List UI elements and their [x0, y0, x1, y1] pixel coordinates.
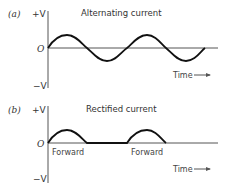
panel-a-label: (a)	[8, 9, 21, 19]
panel-a-arrowhead-icon	[206, 73, 211, 77]
panel-b-zero-label: O	[37, 139, 45, 149]
panel-b-forward-label-2: Forward	[131, 148, 163, 157]
panel-b-time-label: Time	[172, 165, 193, 174]
panel-b-plus-v-label: +V	[32, 105, 47, 115]
panel-a-title: Alternating current	[81, 8, 162, 18]
panel-b-arrowhead-icon	[206, 167, 211, 171]
panel-b-minus-v-label: −V	[33, 174, 48, 184]
panel-b-forward-label-1: Forward	[52, 148, 84, 157]
panel-a-zero-label: O	[37, 44, 45, 54]
panel-a-time-label: Time	[172, 71, 193, 80]
panel-a-plus-v-label: +V	[32, 9, 47, 19]
panel-b-title: Rectified current	[86, 104, 157, 114]
panel-a-minus-v-label: −V	[33, 81, 48, 91]
current-diagram: (a) +V Alternating current O −V Time (b)…	[0, 0, 234, 189]
panel-b-rectified-current: (b) +V Rectified current O −V Forward Fo…	[8, 104, 218, 184]
panel-b-rectified-wave	[48, 130, 166, 143]
panel-b-label: (b)	[8, 105, 21, 115]
panel-a-alternating-current: (a) +V Alternating current O −V Time	[8, 8, 218, 91]
